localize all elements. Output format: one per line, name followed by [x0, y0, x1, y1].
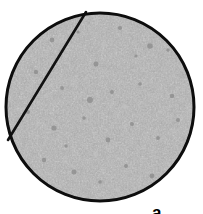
panel-label-text: a: [152, 204, 176, 214]
figure-panel: a: [0, 0, 203, 214]
panel-label: a: [152, 204, 176, 214]
specimen-diagram: [0, 0, 203, 214]
